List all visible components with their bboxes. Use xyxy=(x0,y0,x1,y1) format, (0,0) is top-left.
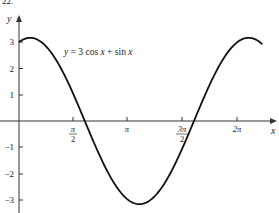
y-axis-arrow-icon xyxy=(16,15,22,22)
x-axis-arrow-icon xyxy=(270,118,277,124)
y-tick-label: 1 xyxy=(10,90,15,100)
x-axis-label: x xyxy=(270,125,276,136)
x-tick-label: π xyxy=(125,124,130,134)
function-label: y = 3 cos x + sin x xyxy=(63,47,133,57)
x-tick-label: 2π xyxy=(233,124,242,134)
x-tick-label-num: 3π xyxy=(177,124,187,134)
y-axis-label: y xyxy=(6,13,12,24)
x-tick-label-den: 2 xyxy=(180,134,184,144)
y-tick-label: −3 xyxy=(4,195,14,205)
y-tick-label: −2 xyxy=(4,169,14,179)
y-tick-label: −1 xyxy=(4,142,14,152)
y-tick-label: 3 xyxy=(10,37,15,47)
y-tick-label: 2 xyxy=(10,64,15,74)
x-tick-label-num: π xyxy=(71,124,76,134)
figure-number: 22. xyxy=(2,0,13,6)
x-tick-label-den: 2 xyxy=(71,134,75,144)
function-plot: 22. x y 3 2 1 −1 −2 −3 π 2 π 3π 2 xyxy=(0,0,279,213)
